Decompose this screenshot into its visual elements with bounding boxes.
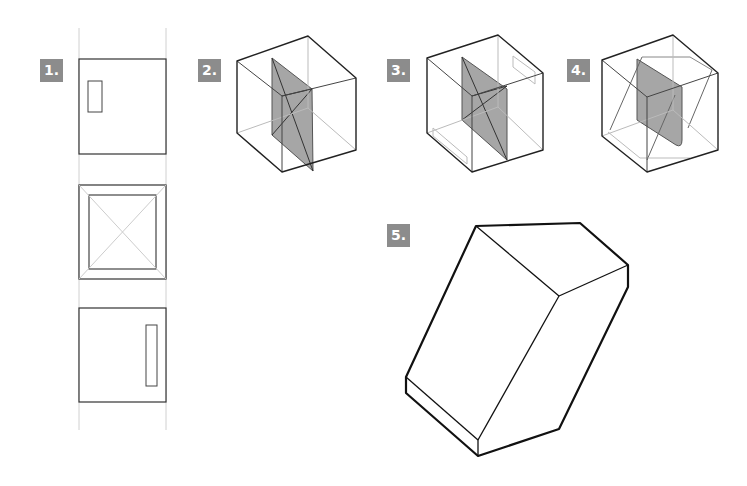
front-view [79, 59, 166, 154]
cube-step-4 [602, 35, 718, 172]
diagram-canvas [0, 0, 747, 486]
cube-step-2 [237, 36, 356, 172]
cube-step-3 [427, 35, 543, 172]
top-view [79, 185, 166, 279]
orthographic-views [79, 28, 166, 430]
side-view [79, 308, 166, 402]
solid-step-5 [406, 223, 628, 456]
